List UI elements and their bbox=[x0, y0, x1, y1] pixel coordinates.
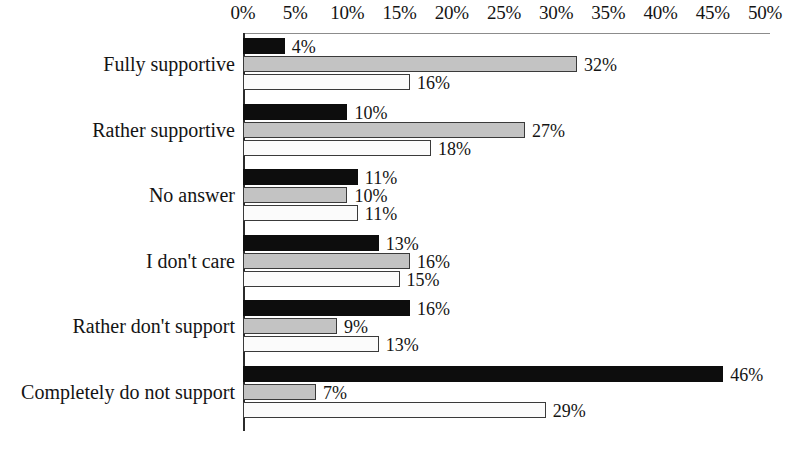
category-label: Completely do not support bbox=[21, 381, 235, 403]
bar-value-label: 11% bbox=[365, 170, 397, 186]
bar-value-label: 10% bbox=[354, 188, 387, 204]
category-labels: Fully supportiveRather supportiveNo answ… bbox=[0, 33, 240, 431]
plot-area: 4%32%16%10%27%18%11%10%11%13%16%15%16%9%… bbox=[243, 33, 770, 431]
bar-series-3-4 bbox=[243, 336, 379, 352]
bar-series-2-5 bbox=[243, 384, 316, 400]
bar-series-1-3 bbox=[243, 235, 379, 251]
bar-value-label: 16% bbox=[417, 75, 450, 91]
bar-series-2-1 bbox=[243, 122, 525, 138]
category-label: Rather don't support bbox=[73, 315, 235, 337]
bar-value-label: 13% bbox=[386, 236, 419, 252]
x-tick-label: 45% bbox=[696, 2, 730, 24]
x-tick-label: 15% bbox=[382, 2, 416, 24]
bar-value-label: 18% bbox=[438, 141, 471, 157]
bar-value-label: 16% bbox=[417, 254, 450, 270]
bar-value-label: 32% bbox=[584, 57, 617, 73]
bar-value-label: 4% bbox=[292, 39, 316, 55]
x-tick-label: 5% bbox=[283, 2, 308, 24]
category-label: I don't care bbox=[146, 250, 235, 272]
bar-series-3-5 bbox=[243, 402, 546, 418]
bar-value-label: 10% bbox=[354, 105, 387, 121]
x-tick-label: 10% bbox=[330, 2, 364, 24]
bar-series-2-2 bbox=[243, 187, 347, 203]
bar-series-2-4 bbox=[243, 318, 337, 334]
x-tick-label: 20% bbox=[435, 2, 469, 24]
axis-line-top bbox=[243, 33, 770, 34]
bar-series-1-4 bbox=[243, 300, 410, 316]
x-axis-tick-labels: 0%5%10%15%20%25%30%35%40%45%50% bbox=[0, 2, 788, 26]
bar-value-label: 16% bbox=[417, 301, 450, 317]
bar-series-3-1 bbox=[243, 140, 431, 156]
bar-series-3-3 bbox=[243, 271, 400, 287]
bar-value-label: 46% bbox=[730, 367, 763, 383]
horizontal-bar-chart: 0%5%10%15%20%25%30%35%40%45%50% Fully su… bbox=[0, 0, 788, 453]
x-tick-label: 0% bbox=[231, 2, 256, 24]
bar-series-1-5 bbox=[243, 366, 723, 382]
x-tick-label: 25% bbox=[487, 2, 521, 24]
bar-value-label: 9% bbox=[344, 319, 368, 335]
bar-series-2-0 bbox=[243, 56, 577, 72]
bar-value-label: 27% bbox=[532, 123, 565, 139]
x-tick-label: 30% bbox=[539, 2, 573, 24]
x-tick-label: 50% bbox=[748, 2, 782, 24]
bar-series-2-3 bbox=[243, 253, 410, 269]
bar-series-1-1 bbox=[243, 104, 347, 120]
bar-series-1-0 bbox=[243, 38, 285, 54]
bar-series-1-2 bbox=[243, 169, 358, 185]
bar-value-label: 29% bbox=[553, 403, 586, 419]
x-tick-label: 40% bbox=[643, 2, 677, 24]
bar-value-label: 11% bbox=[365, 206, 397, 222]
bar-series-3-0 bbox=[243, 74, 410, 90]
x-tick-label: 35% bbox=[591, 2, 625, 24]
category-label: No answer bbox=[149, 184, 235, 206]
bar-value-label: 7% bbox=[323, 385, 347, 401]
category-label: Rather supportive bbox=[92, 119, 235, 141]
bar-series-3-2 bbox=[243, 205, 358, 221]
bar-value-label: 15% bbox=[407, 272, 440, 288]
bar-value-label: 13% bbox=[386, 337, 419, 353]
category-label: Fully supportive bbox=[103, 53, 235, 75]
